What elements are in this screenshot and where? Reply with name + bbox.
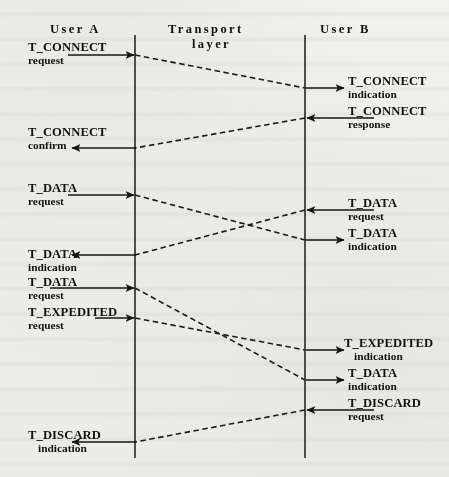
label-type: indication (28, 261, 77, 274)
flow-connect-response (135, 118, 305, 148)
label-kind: T_DATA (348, 367, 397, 380)
flow-discard-b-to-a (135, 410, 305, 442)
label-t-discard-indication: T_DISCARD indication (28, 429, 101, 456)
flow-connect (135, 55, 305, 88)
label-t-expedited-request: T_EXPEDITED request (28, 306, 117, 333)
label-t-data-request-1: T_DATA request (28, 182, 77, 209)
label-kind: T_EXPEDITED (344, 337, 433, 350)
label-kind: T_DISCARD (28, 429, 101, 442)
label-kind: T_DATA (348, 197, 397, 210)
label-kind: T_DATA (28, 182, 77, 195)
flow-expedited-a-to-b (135, 318, 305, 350)
label-type: confirm (28, 139, 107, 152)
label-kind: T_CONNECT (348, 105, 427, 118)
label-type: indication (348, 380, 397, 393)
label-type: request (348, 410, 421, 423)
label-t-data-indication-b1: T_DATA indication (348, 227, 397, 254)
label-type: response (348, 118, 427, 131)
flow-data-a-to-b (135, 195, 305, 240)
label-type: indication (344, 350, 433, 363)
label-kind: T_CONNECT (28, 126, 107, 139)
figure-canvas: User A Transport layer User B (0, 0, 449, 477)
label-type: indication (348, 88, 427, 101)
label-type: request (28, 319, 117, 332)
label-t-connect-request: T_CONNECT request (28, 41, 107, 68)
label-t-connect-indication: T_CONNECT indication (348, 75, 427, 102)
label-type: request (348, 210, 397, 223)
label-t-data-request-b: T_DATA request (348, 197, 397, 224)
label-t-data-request-2: T_DATA request (28, 276, 77, 303)
label-kind: T_DATA (28, 248, 77, 261)
label-t-expedited-indication: T_EXPEDITED indication (344, 337, 433, 364)
label-type: indication (28, 442, 101, 455)
label-t-connect-confirm: T_CONNECT confirm (28, 126, 107, 153)
label-kind: T_DATA (28, 276, 77, 289)
label-t-data-indication-b2: T_DATA indication (348, 367, 397, 394)
label-type: request (28, 289, 77, 302)
label-kind: T_DISCARD (348, 397, 421, 410)
label-kind: T_CONNECT (348, 75, 427, 88)
label-type: request (28, 54, 107, 67)
label-kind: T_EXPEDITED (28, 306, 117, 319)
label-t-connect-response: T_CONNECT response (348, 105, 427, 132)
label-kind: T_DATA (348, 227, 397, 240)
label-type: request (28, 195, 77, 208)
label-t-discard-request: T_DISCARD request (348, 397, 421, 424)
transport-flow-lines (135, 55, 305, 442)
label-type: indication (348, 240, 397, 253)
label-kind: T_CONNECT (28, 41, 107, 54)
label-t-data-indication-1: T_DATA indication (28, 248, 77, 275)
